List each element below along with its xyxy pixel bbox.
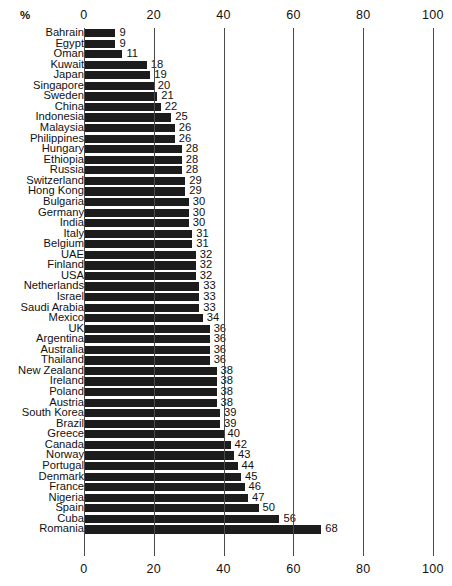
x-axis-top-tick-0: 0 (80, 8, 87, 22)
gridline-60 (293, 28, 294, 556)
bar (84, 92, 157, 100)
gridline-80 (363, 28, 364, 556)
bar-value-label: 50 (263, 502, 275, 514)
category-label: Romania (0, 523, 84, 535)
bar (84, 525, 321, 533)
bar (84, 314, 203, 322)
x-axis-bottom: 020406080100 (0, 562, 452, 578)
bar (84, 399, 217, 407)
bar (84, 166, 182, 174)
bar-row: Romania68 (0, 524, 452, 535)
bar (84, 282, 199, 290)
bar (84, 462, 238, 470)
bar (84, 377, 217, 385)
bar (84, 272, 196, 280)
bar (84, 71, 150, 79)
x-axis-bottom-tick-100: 100 (422, 562, 444, 576)
gridline-0 (84, 28, 85, 556)
bar (84, 124, 175, 132)
bar (84, 145, 182, 153)
bar (84, 325, 210, 333)
bar (84, 304, 199, 312)
bar (84, 356, 210, 364)
bar (84, 29, 115, 37)
bar (84, 409, 220, 417)
bar (84, 198, 189, 206)
bar (84, 367, 217, 375)
bar-value-label: 11 (126, 48, 138, 60)
bar (84, 261, 196, 269)
bar (84, 240, 192, 248)
bar (84, 219, 189, 227)
x-axis-top-tick-100: 100 (422, 8, 444, 22)
bar (84, 451, 234, 459)
bar (84, 483, 245, 491)
gridline-40 (224, 28, 225, 556)
bar (84, 187, 185, 195)
gridline-20 (154, 28, 155, 556)
bar (84, 293, 199, 301)
bar (84, 473, 241, 481)
bar (84, 177, 185, 185)
bar (84, 209, 189, 217)
x-axis-top-tick-60: 60 (286, 8, 301, 22)
bar (84, 156, 182, 164)
horizontal-bar-chart: % 020406080100 020406080100 Bahrain9Egyp… (0, 0, 452, 586)
x-axis-top-tick-80: 80 (356, 8, 371, 22)
bar (84, 251, 196, 259)
bar (84, 135, 175, 143)
bar (84, 82, 154, 90)
x-axis-top-tick-40: 40 (216, 8, 231, 22)
bar (84, 103, 161, 111)
bar (84, 230, 192, 238)
bar (84, 346, 210, 354)
x-axis-bottom-tick-80: 80 (356, 562, 371, 576)
gridline-100 (433, 28, 434, 556)
x-axis-top: 020406080100 (0, 8, 452, 24)
bar (84, 113, 171, 121)
bar (84, 61, 147, 69)
x-axis-top-tick-20: 20 (147, 8, 162, 22)
bar (84, 441, 231, 449)
bar (84, 388, 217, 396)
bar (84, 40, 115, 48)
x-axis-bottom-tick-40: 40 (216, 562, 231, 576)
x-axis-bottom-tick-60: 60 (286, 562, 301, 576)
x-axis-bottom-tick-20: 20 (147, 562, 162, 576)
bar-value-label: 9 (119, 38, 125, 50)
bar (84, 515, 279, 523)
x-axis-bottom-tick-0: 0 (80, 562, 87, 576)
bar (84, 335, 210, 343)
bar (84, 504, 259, 512)
bar-value-label: 68 (325, 523, 337, 535)
bar (84, 50, 122, 58)
plot-area: Bahrain9Egypt9Oman11Kuwait18Japan19Singa… (0, 28, 452, 556)
bar (84, 420, 220, 428)
